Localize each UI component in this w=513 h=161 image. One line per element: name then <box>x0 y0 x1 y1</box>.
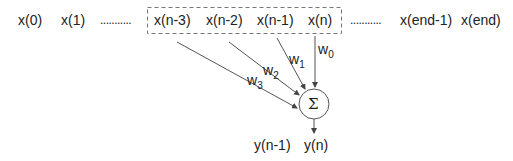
weight-w0: w0 <box>318 42 334 62</box>
arrow-w3 <box>177 42 297 108</box>
weight-w1: w1 <box>289 52 305 72</box>
ellipsis-right: ........... <box>350 12 381 28</box>
fir-filter-diagram: x(0) x(1) ........... x(n-3) x(n-2) x(n-… <box>0 0 513 161</box>
input-x-n-1: x(n-1) <box>257 12 294 28</box>
weight-w2: w2 <box>263 63 279 83</box>
ellipsis-left: ........... <box>100 12 131 28</box>
input-x-n: x(n) <box>308 12 332 28</box>
input-x-n-2: x(n-2) <box>206 12 243 28</box>
output-y-n-1: y(n-1) <box>254 137 291 153</box>
input-x-end-1: x(end-1) <box>400 12 452 28</box>
input-x-end: x(end) <box>461 12 501 28</box>
input-x0: x(0) <box>18 12 42 28</box>
input-x1: x(1) <box>61 12 85 28</box>
sigma-symbol: Σ <box>308 96 319 112</box>
output-y-n: y(n) <box>304 137 328 153</box>
weight-w3: w3 <box>247 73 263 93</box>
input-x-n-3: x(n-3) <box>154 12 191 28</box>
